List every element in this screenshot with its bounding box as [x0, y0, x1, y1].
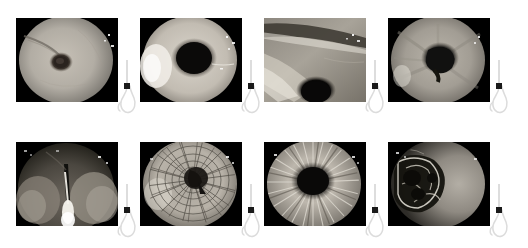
endoscopy-render-1	[16, 18, 118, 102]
panel-1[interactable]	[0, 0, 132, 124]
endoscopy-render-4	[388, 18, 490, 102]
endoscopy-render-3	[264, 18, 366, 102]
endoscopy-render-5	[16, 142, 118, 226]
scope-position-marker	[496, 207, 502, 213]
panel-5[interactable]	[0, 124, 132, 248]
stomach-diagram-4	[484, 56, 514, 118]
panel-row-bottom	[0, 124, 528, 248]
endoscopy-image-7[interactable]	[264, 142, 366, 226]
endoscopy-image-8[interactable]	[388, 142, 490, 226]
endoscopy-image-5[interactable]	[16, 142, 118, 226]
endoscopy-image-3[interactable]	[264, 18, 366, 102]
panel-7[interactable]	[248, 124, 380, 248]
panel-row-top	[0, 0, 528, 124]
endoscopy-image-2[interactable]	[140, 18, 242, 102]
panel-2[interactable]	[124, 0, 256, 124]
endoscopy-render-8	[388, 142, 490, 226]
stomach-esophagus-icon	[484, 180, 514, 242]
figure-root	[0, 0, 528, 248]
panel-8[interactable]	[372, 124, 504, 248]
endoscopy-render-2	[140, 18, 242, 102]
panel-4[interactable]	[372, 0, 504, 124]
endoscopy-image-6[interactable]	[140, 142, 242, 226]
scope-position-marker	[496, 83, 502, 89]
endoscopy-render-6	[140, 142, 242, 226]
panel-3[interactable]	[248, 0, 380, 124]
stomach-esophagus-icon	[484, 56, 514, 118]
endoscopy-render-7	[264, 142, 366, 226]
endoscopy-image-1[interactable]	[16, 18, 118, 102]
endoscopy-image-4[interactable]	[388, 18, 490, 102]
stomach-diagram-8	[484, 180, 514, 242]
panel-6[interactable]	[124, 124, 256, 248]
